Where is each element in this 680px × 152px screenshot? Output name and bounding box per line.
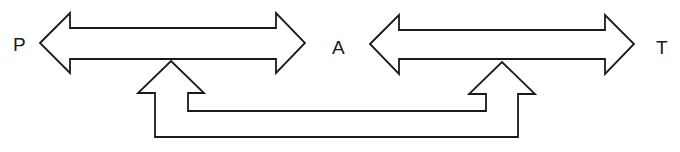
label-a: A bbox=[332, 38, 345, 57]
diagram-canvas: P A T bbox=[0, 0, 680, 152]
label-t: T bbox=[656, 38, 668, 57]
diagram-svg bbox=[0, 0, 680, 152]
label-p: P bbox=[13, 35, 26, 54]
u-connector-arrow bbox=[138, 61, 535, 137]
